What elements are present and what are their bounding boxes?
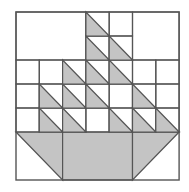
boat-hull-center	[63, 132, 133, 180]
sailboat-quilt-diagram	[0, 0, 189, 192]
